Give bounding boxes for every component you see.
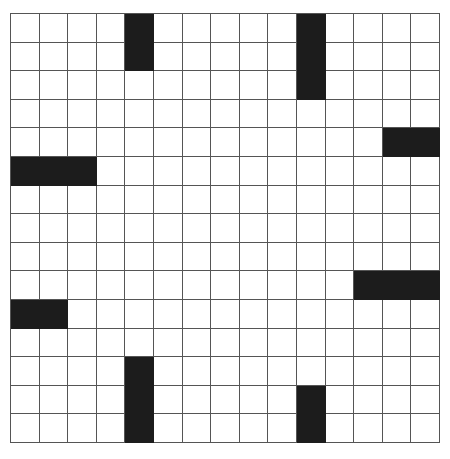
grid-cell[interactable] — [383, 71, 412, 100]
grid-cell[interactable] — [183, 271, 212, 300]
grid-cell[interactable] — [11, 71, 40, 100]
grid-cell[interactable] — [97, 186, 126, 215]
grid-cell[interactable] — [354, 157, 383, 186]
grid-cell[interactable] — [40, 186, 69, 215]
grid-cell[interactable] — [297, 271, 326, 300]
grid-cell[interactable] — [97, 43, 126, 72]
grid-cell[interactable] — [154, 357, 183, 386]
grid-cell[interactable] — [268, 128, 297, 157]
grid-cell[interactable] — [240, 186, 269, 215]
grid-cell[interactable] — [411, 243, 440, 272]
grid-cell[interactable] — [11, 14, 40, 43]
grid-cell[interactable] — [240, 157, 269, 186]
grid-cell[interactable] — [183, 214, 212, 243]
grid-cell[interactable] — [68, 71, 97, 100]
grid-cell[interactable] — [268, 14, 297, 43]
grid-cell[interactable] — [297, 243, 326, 272]
grid-cell[interactable] — [11, 329, 40, 358]
grid-cell[interactable] — [183, 100, 212, 129]
grid-cell[interactable] — [240, 271, 269, 300]
grid-cell[interactable] — [383, 186, 412, 215]
grid-cell[interactable] — [240, 214, 269, 243]
grid-cell[interactable] — [354, 243, 383, 272]
grid-cell[interactable] — [68, 386, 97, 415]
grid-cell[interactable] — [125, 243, 154, 272]
grid-cell[interactable] — [154, 414, 183, 443]
grid-cell[interactable] — [97, 386, 126, 415]
grid-cell[interactable] — [97, 300, 126, 329]
grid-cell[interactable] — [40, 414, 69, 443]
grid-cell[interactable] — [297, 329, 326, 358]
grid-cell[interactable] — [97, 14, 126, 43]
grid-cell[interactable] — [97, 414, 126, 443]
grid-cell[interactable] — [40, 357, 69, 386]
grid-cell[interactable] — [40, 386, 69, 415]
grid-cell[interactable] — [411, 357, 440, 386]
grid-cell[interactable] — [268, 386, 297, 415]
grid-cell[interactable] — [68, 100, 97, 129]
grid-cell[interactable] — [11, 386, 40, 415]
grid-cell[interactable] — [11, 186, 40, 215]
grid-cell[interactable] — [125, 128, 154, 157]
grid-cell[interactable] — [326, 386, 355, 415]
grid-cell[interactable] — [68, 329, 97, 358]
grid-cell[interactable] — [240, 14, 269, 43]
grid-cell[interactable] — [211, 357, 240, 386]
grid-cell[interactable] — [97, 157, 126, 186]
grid-cell[interactable] — [68, 300, 97, 329]
grid-cell[interactable] — [97, 329, 126, 358]
grid-cell[interactable] — [383, 243, 412, 272]
grid-cell[interactable] — [11, 43, 40, 72]
grid-cell[interactable] — [411, 100, 440, 129]
grid-cell[interactable] — [40, 100, 69, 129]
grid-cell[interactable] — [97, 100, 126, 129]
grid-cell[interactable] — [154, 71, 183, 100]
grid-cell[interactable] — [268, 243, 297, 272]
grid-cell[interactable] — [183, 186, 212, 215]
grid-cell[interactable] — [154, 300, 183, 329]
grid-cell[interactable] — [240, 100, 269, 129]
grid-cell[interactable] — [11, 271, 40, 300]
grid-cell[interactable] — [326, 329, 355, 358]
grid-cell[interactable] — [40, 271, 69, 300]
grid-cell[interactable] — [125, 329, 154, 358]
grid-cell[interactable] — [40, 214, 69, 243]
grid-cell[interactable] — [326, 357, 355, 386]
grid-cell[interactable] — [40, 128, 69, 157]
grid-cell[interactable] — [183, 14, 212, 43]
grid-cell[interactable] — [125, 157, 154, 186]
grid-cell[interactable] — [326, 14, 355, 43]
grid-cell[interactable] — [125, 300, 154, 329]
grid-cell[interactable] — [326, 414, 355, 443]
grid-cell[interactable] — [97, 271, 126, 300]
grid-cell[interactable] — [383, 157, 412, 186]
grid-cell[interactable] — [268, 414, 297, 443]
grid-cell[interactable] — [11, 357, 40, 386]
grid-cell[interactable] — [97, 71, 126, 100]
grid-cell[interactable] — [326, 128, 355, 157]
grid-cell[interactable] — [240, 71, 269, 100]
grid-cell[interactable] — [354, 14, 383, 43]
grid-cell[interactable] — [183, 329, 212, 358]
grid-cell[interactable] — [297, 100, 326, 129]
grid-cell[interactable] — [183, 386, 212, 415]
grid-cell[interactable] — [154, 243, 183, 272]
grid-cell[interactable] — [383, 43, 412, 72]
grid-cell[interactable] — [183, 128, 212, 157]
grid-cell[interactable] — [68, 214, 97, 243]
grid-cell[interactable] — [240, 300, 269, 329]
grid-cell[interactable] — [154, 43, 183, 72]
grid-cell[interactable] — [154, 128, 183, 157]
grid-cell[interactable] — [68, 128, 97, 157]
grid-cell[interactable] — [97, 357, 126, 386]
grid-cell[interactable] — [125, 71, 154, 100]
grid-cell[interactable] — [211, 300, 240, 329]
grid-cell[interactable] — [326, 186, 355, 215]
grid-cell[interactable] — [326, 300, 355, 329]
grid-cell[interactable] — [354, 214, 383, 243]
grid-cell[interactable] — [326, 43, 355, 72]
grid-cell[interactable] — [240, 329, 269, 358]
grid-cell[interactable] — [411, 386, 440, 415]
grid-cell[interactable] — [68, 14, 97, 43]
grid-cell[interactable] — [68, 271, 97, 300]
